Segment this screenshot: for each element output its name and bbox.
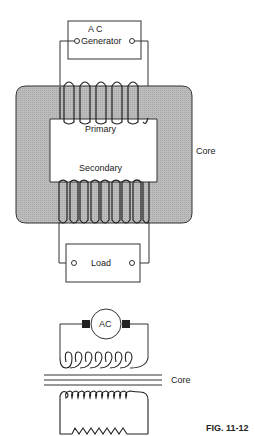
- load-label: Load: [91, 258, 111, 268]
- schematic-secondary-coil: [60, 391, 148, 434]
- schematic-core-lines: [44, 375, 162, 385]
- schematic-primary-coil: [60, 352, 148, 368]
- schematic-core-label: Core: [171, 375, 191, 385]
- primary-label: Primary: [85, 124, 116, 134]
- load-box: [59, 222, 149, 282]
- schematic-ac-source: [60, 309, 148, 358]
- transformer-diagram: [0, 0, 255, 436]
- secondary-label: Secondary: [79, 163, 122, 173]
- ac-source-label: AC: [99, 319, 112, 329]
- core-label: Core: [196, 146, 216, 156]
- generator-label-line2: Generator: [81, 36, 122, 46]
- transformer-core: [16, 86, 192, 223]
- generator-label-line1: A C: [88, 24, 103, 34]
- figure-label: FIG. 11-12: [206, 423, 249, 433]
